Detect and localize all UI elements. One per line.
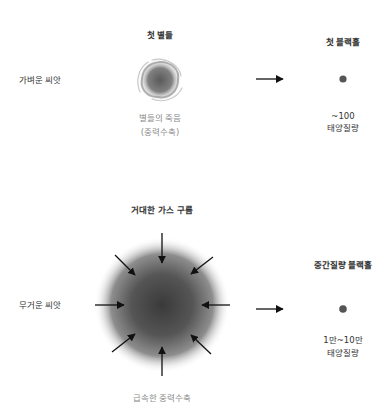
first-stars-swirl-icon [138,58,182,102]
rapid-collapse-label: 급속한 중력수축 [133,392,192,404]
light-seed-label: 가벼운 씨앗 [19,74,62,86]
first-stars-title: 첫 별들 [147,29,174,41]
stellar-death-label: 별들의 죽음 [139,112,182,124]
intermediate-black-hole-dot-icon [339,305,347,313]
intermediate-black-hole-title: 중간질량 블랙홀 [314,259,373,271]
first-black-hole-title: 첫 블랙홀 [326,36,361,48]
intermediate-black-hole-mass-value: 1만~10만 [323,334,362,346]
first-black-hole-dot-icon [339,75,346,82]
gravitational-collapse-label: (중력수축) [141,126,180,138]
intermediate-black-hole-mass-unit: 태양질량 [327,347,359,359]
giant-gas-cloud-title: 거대한 가스 구름 [131,204,193,216]
first-black-hole-mass-unit: 태양질량 [327,122,359,134]
heavy-seed-label: 무거운 씨앗 [19,299,62,311]
first-black-hole-mass-value: ~100 [331,110,354,122]
